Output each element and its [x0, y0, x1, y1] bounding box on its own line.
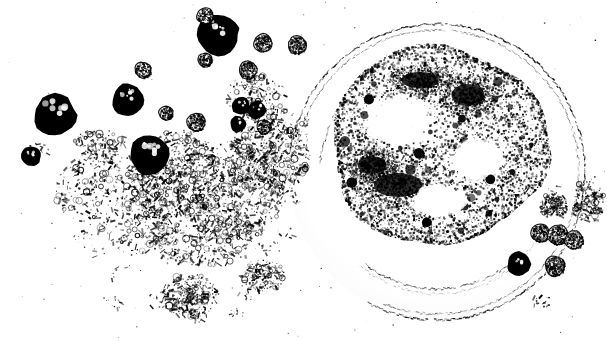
- blueberries: [0, 0, 607, 341]
- halftone-food-photograph: Blueberry crumble on a white plate A rou…: [0, 0, 607, 341]
